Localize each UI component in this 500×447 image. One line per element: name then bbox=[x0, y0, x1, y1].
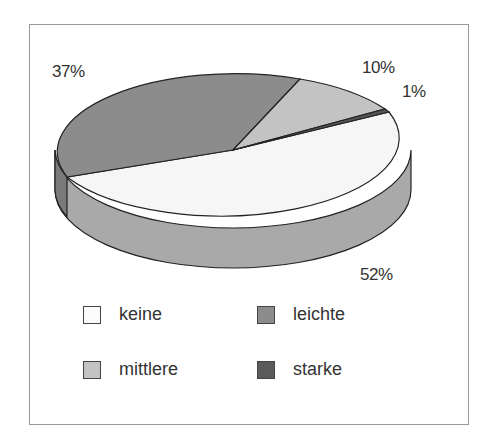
label-mittlere-pct: 10% bbox=[362, 58, 395, 78]
legend-item-mittlere: mittlere bbox=[83, 359, 178, 380]
legend-label-mittlere: mittlere bbox=[119, 359, 178, 380]
legend-item-starke: starke bbox=[257, 359, 342, 380]
label-starke-pct: 1% bbox=[402, 82, 426, 102]
legend-item-keine: keine bbox=[83, 304, 162, 325]
label-leichte-pct: 37% bbox=[52, 62, 85, 82]
legend-label-leichte: leichte bbox=[293, 304, 345, 325]
legend-item-leichte: leichte bbox=[257, 304, 345, 325]
label-keine-pct: 52% bbox=[360, 265, 393, 285]
legend-swatch-starke bbox=[257, 361, 275, 379]
legend-swatch-mittlere bbox=[83, 361, 101, 379]
legend-swatch-keine bbox=[83, 306, 101, 324]
legend-label-starke: starke bbox=[293, 359, 342, 380]
legend-label-keine: keine bbox=[119, 304, 162, 325]
legend-swatch-leichte bbox=[257, 306, 275, 324]
